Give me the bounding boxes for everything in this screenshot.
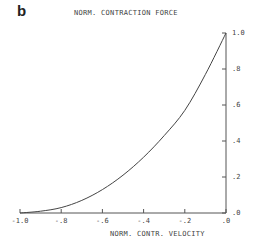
x-tick-label: .0 [222,217,230,225]
force-velocity-curve [20,33,226,213]
y-tick-label: .6 [232,101,240,109]
y-tick-label: .0 [232,209,240,217]
y-tick-label: 1.0 [232,29,245,37]
chart-plot: -1.0-.8-.6-.4-.2.0.0.2.4.6.81.0 [0,0,260,247]
x-tick-label: -.4 [137,217,150,225]
y-tick-label: .2 [232,173,240,181]
y-tick-label: .4 [232,137,240,145]
y-tick-label: .8 [232,65,240,73]
x-tick-label: -1.0 [12,217,29,225]
x-tick-label: -.2 [178,217,191,225]
x-tick-label: -.6 [96,217,109,225]
x-tick-label: -.8 [55,217,68,225]
